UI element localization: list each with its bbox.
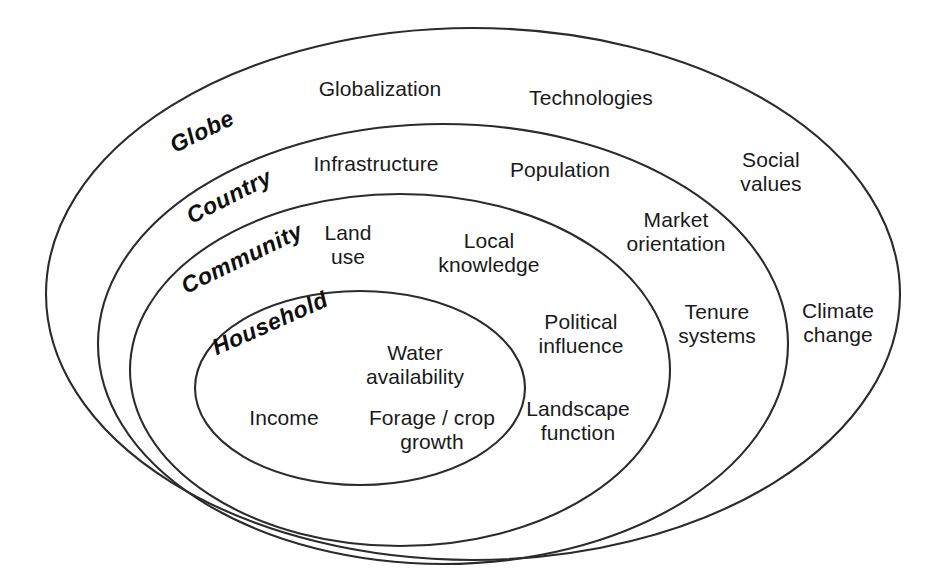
factor-income: Income [249, 406, 318, 430]
factor-population: Population [510, 158, 610, 182]
ellipse-rings-group [0, 0, 929, 577]
factor-infrastructure: Infrastructure [313, 152, 438, 176]
factor-water-availability: Water availability [366, 341, 464, 390]
factor-landscape-function: Landscape function [526, 397, 630, 446]
globe-ellipse [46, 28, 900, 560]
factor-local-knowledge: Local knowledge [438, 229, 539, 278]
factor-climate-change: Climate change [802, 299, 874, 348]
factor-market-orientation: Market orientation [626, 208, 725, 257]
factor-forage-crop-growth: Forage / crop growth [369, 406, 495, 455]
factor-social-values: Social values [740, 148, 801, 197]
factor-technologies: Technologies [529, 86, 653, 110]
factor-tenure-systems: Tenure systems [678, 300, 756, 349]
factor-political-influence: Political influence [539, 310, 624, 359]
nested-scales-diagram: Globe Country Community Household Global… [0, 0, 929, 577]
factor-globalization: Globalization [319, 77, 442, 101]
factor-land-use: Land use [324, 221, 371, 270]
